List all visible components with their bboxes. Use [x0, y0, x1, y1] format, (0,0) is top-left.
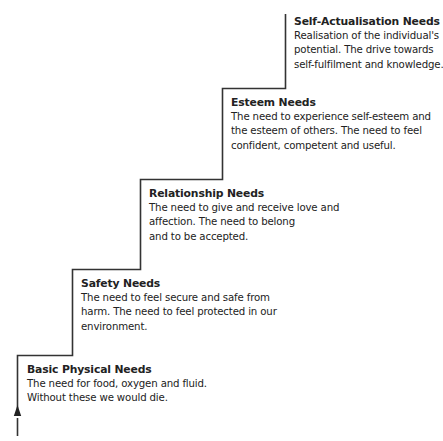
step-description-line: The need to feel secure and safe from [81, 291, 277, 305]
step-description-line: and to be accepted. [149, 230, 339, 244]
step-description-line: self-fulfilment and knowledge. [294, 58, 443, 72]
step-esteem: Esteem Needs The need to experience self… [231, 96, 431, 153]
step-description-line: harm. The need to feel protected in our [81, 305, 277, 319]
step-description-line: The need to give and receive love and [149, 201, 339, 215]
step-description-line: The need to experience self-esteem and [231, 110, 431, 124]
step-self-actualisation: Self-Actualisation Needs Realisation of … [294, 15, 443, 72]
step-description-line: potential. The drive towards [294, 43, 443, 57]
step-title: Safety Needs [81, 277, 277, 291]
step-title: Basic Physical Needs [27, 363, 207, 377]
step-title: Self-Actualisation Needs [294, 15, 443, 29]
step-safety: Safety Needs The need to feel secure and… [81, 277, 277, 334]
step-description-line: the esteem of others. The need to feel [231, 124, 431, 138]
step-description-line: Without these we would die. [27, 391, 207, 405]
step-description-line: confident, competent and useful. [231, 139, 431, 153]
step-description-line: environment. [81, 320, 277, 334]
step-description-line: Realisation of the individual's [294, 29, 443, 43]
step-title: Relationship Needs [149, 187, 339, 201]
step-basic-physical: Basic Physical Needs The need for food, … [27, 363, 207, 406]
up-arrow-icon [14, 405, 21, 436]
step-description-line: The need for food, oxygen and fluid. [27, 377, 207, 391]
step-relationship: Relationship Needs The need to give and … [149, 187, 339, 244]
step-title: Esteem Needs [231, 96, 431, 110]
step-description-line: affection. The need to belong [149, 215, 339, 229]
